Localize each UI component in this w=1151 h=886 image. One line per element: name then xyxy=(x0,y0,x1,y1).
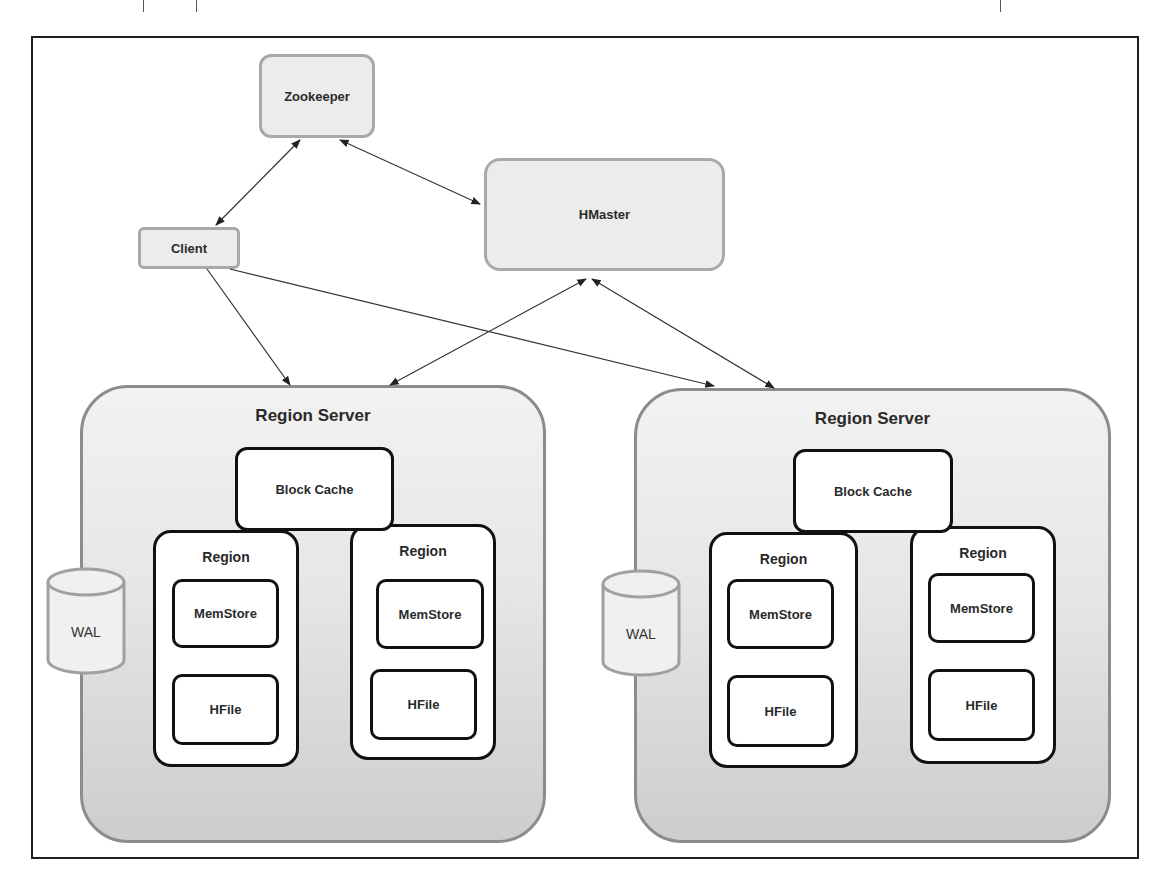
client-node: Client xyxy=(138,227,240,269)
region-server-title: Region Server xyxy=(637,409,1108,429)
memstore-box: MemStore xyxy=(172,579,279,648)
block-cache-box: Block Cache xyxy=(793,449,953,533)
hmaster-node: HMaster xyxy=(484,158,725,271)
wal-cylinder-2: WAL xyxy=(601,568,681,678)
memstore-box: MemStore xyxy=(727,579,834,649)
database-icon xyxy=(46,566,126,676)
memstore-box: MemStore xyxy=(928,573,1035,643)
zookeeper-node: Zookeeper xyxy=(259,54,375,138)
region-title: Region xyxy=(712,551,855,567)
region-server-title: Region Server xyxy=(83,406,543,426)
page-edge-mark xyxy=(143,0,144,12)
hfile-box: HFile xyxy=(172,674,279,745)
database-icon xyxy=(601,568,681,678)
hfile-box: HFile xyxy=(928,669,1035,741)
page-edge-mark xyxy=(196,0,197,12)
wal-label: WAL xyxy=(601,626,681,642)
hfile-box: HFile xyxy=(727,675,834,747)
page-edge-mark xyxy=(1000,0,1001,12)
region-title: Region xyxy=(156,549,296,565)
wal-cylinder-1: WAL xyxy=(46,566,126,676)
region-title: Region xyxy=(913,545,1053,561)
hfile-box: HFile xyxy=(370,669,477,740)
wal-label: WAL xyxy=(46,624,126,640)
region-title: Region xyxy=(353,543,493,559)
block-cache-box: Block Cache xyxy=(235,447,394,531)
memstore-box: MemStore xyxy=(376,579,484,649)
